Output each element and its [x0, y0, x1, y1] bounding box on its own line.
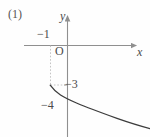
coordinate-plot [0, 0, 150, 137]
figure-index-label: (1) [8, 8, 22, 20]
y-axis-label: y [60, 10, 65, 22]
origin-label: O [55, 45, 64, 57]
y-tick-label-neg3: −3 [65, 78, 78, 90]
x-tick-label-neg1: −1 [37, 28, 50, 40]
figure-container: (1) y x O −1 −3 −4 [0, 0, 150, 137]
curve-path [50, 85, 150, 128]
x-axis-label: x [137, 46, 142, 58]
y-tick-label-neg4: −4 [41, 99, 54, 111]
